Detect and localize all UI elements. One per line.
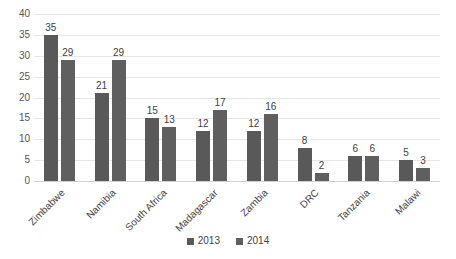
legend-swatch-icon: [236, 238, 243, 245]
bar-chart: 4035302520151050 35292129151312171216826…: [0, 0, 456, 259]
x-axis-tick-label: Tanzania: [336, 187, 372, 223]
bar[interactable]: [247, 131, 261, 181]
x-axis-label-cell: Zambia: [237, 181, 288, 239]
y-axis-tick-label: 35: [0, 30, 30, 40]
bar-groups: 35292129151312171216826653: [34, 14, 440, 181]
x-axis-tick-label: Namibia: [84, 187, 118, 221]
bar[interactable]: [416, 168, 430, 181]
bar-value-label: 21: [96, 81, 107, 91]
bar-slot: 6: [348, 14, 362, 181]
bar-slot: 5: [399, 14, 413, 181]
legend-item[interactable]: 2014: [236, 236, 269, 246]
bar[interactable]: [61, 60, 75, 181]
bar-slot: 16: [264, 14, 278, 181]
bar[interactable]: [399, 160, 413, 181]
bar-value-label: 12: [248, 119, 259, 129]
bar-value-label: 12: [198, 119, 209, 129]
bar-value-label: 13: [164, 115, 175, 125]
bar-value-label: 8: [302, 136, 308, 146]
y-axis-tick-label: 20: [0, 93, 30, 103]
bar-slot: 35: [44, 14, 58, 181]
bar-value-label: 17: [215, 98, 226, 108]
bar[interactable]: [348, 156, 362, 181]
x-axis-tick-label: Zambia: [239, 187, 270, 218]
bar[interactable]: [365, 156, 379, 181]
bar-value-label: 3: [420, 156, 426, 166]
bar[interactable]: [264, 114, 278, 181]
x-axis-tick-label: DRC: [298, 187, 321, 210]
bar[interactable]: [298, 148, 312, 181]
bar-slot: 12: [247, 14, 261, 181]
bar-value-label: 6: [353, 144, 359, 154]
y-axis-tick-label: 30: [0, 51, 30, 61]
bar-value-label: 5: [403, 148, 409, 158]
bar[interactable]: [44, 35, 58, 181]
bar-slot: 21: [95, 14, 109, 181]
bar-group: 82: [288, 14, 339, 181]
x-axis-label-cell: DRC: [288, 181, 339, 239]
bar[interactable]: [145, 118, 159, 181]
bar-group: 66: [339, 14, 390, 181]
bar-slot: 8: [298, 14, 312, 181]
bar[interactable]: [315, 173, 329, 181]
legend-label: 2013: [198, 236, 220, 246]
bar-slot: 15: [145, 14, 159, 181]
x-axis: ZimbabweNamibiaSouth AfricaMadagascarZam…: [34, 181, 440, 239]
y-axis-tick-label: 5: [0, 155, 30, 165]
y-axis-tick-label: 25: [0, 72, 30, 82]
bar-slot: 12: [196, 14, 210, 181]
bar-slot: 29: [112, 14, 126, 181]
bar[interactable]: [162, 127, 176, 181]
x-axis-tick-label: Zimbabwe: [27, 187, 67, 227]
bar-value-label: 29: [113, 48, 124, 58]
bar-group: 3529: [34, 14, 85, 181]
y-axis-tick-label: 40: [0, 9, 30, 19]
x-axis-tick-label: Malawi: [393, 187, 423, 217]
bar-slot: 17: [213, 14, 227, 181]
bar[interactable]: [112, 60, 126, 181]
bar[interactable]: [95, 93, 109, 181]
bar-group: 2129: [85, 14, 136, 181]
bar-value-label: 2: [319, 161, 325, 171]
x-axis-label-cell: Tanzania: [339, 181, 390, 239]
bar-slot: 3: [416, 14, 430, 181]
bar-slot: 13: [162, 14, 176, 181]
y-axis: 4035302520151050: [0, 14, 30, 181]
bar-value-label: 29: [62, 48, 73, 58]
legend-item[interactable]: 2013: [187, 236, 220, 246]
y-axis-tick-label: 15: [0, 113, 30, 123]
bar-slot: 6: [365, 14, 379, 181]
bar-value-label: 6: [370, 144, 376, 154]
x-axis-label-cell: Zimbabwe: [34, 181, 85, 239]
bar-group: 53: [389, 14, 440, 181]
bar-group: 1513: [136, 14, 187, 181]
legend-swatch-icon: [187, 238, 194, 245]
y-axis-tick-label: 10: [0, 134, 30, 144]
bar[interactable]: [213, 110, 227, 181]
bar-value-label: 16: [265, 102, 276, 112]
x-axis-label-cell: Madagascar: [186, 181, 237, 239]
y-axis-tick-label: 0: [0, 176, 30, 186]
bar-group: 1216: [237, 14, 288, 181]
chart-legend: 20132014: [0, 236, 456, 246]
bar-slot: 2: [315, 14, 329, 181]
bar[interactable]: [196, 131, 210, 181]
bar-value-label: 35: [45, 23, 56, 33]
bar-slot: 29: [61, 14, 75, 181]
bar-group: 1217: [186, 14, 237, 181]
legend-label: 2014: [247, 236, 269, 246]
bar-value-label: 15: [147, 106, 158, 116]
x-axis-label-cell: Malawi: [389, 181, 440, 239]
